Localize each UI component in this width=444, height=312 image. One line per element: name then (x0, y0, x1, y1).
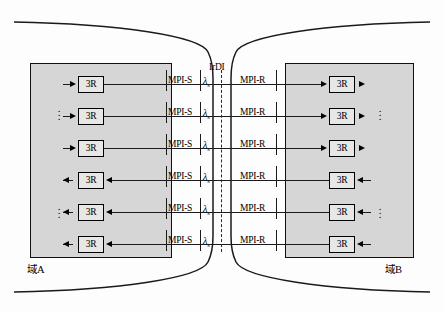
row-2-mpis-tick-right (200, 102, 201, 123)
row-5-feed-in-right (363, 212, 371, 213)
row-1-wavelength-label: λs (203, 76, 210, 90)
row-2-mpis-label: MPI-S (168, 107, 192, 117)
row-1-mpir-label: MPI-R (240, 75, 265, 85)
domain-a-label: 域A (27, 264, 45, 276)
row-5-mpis-tick-right (200, 198, 201, 219)
row-1-mpis-tick-left (166, 70, 167, 91)
row-2-mpir-tick-right (276, 102, 277, 123)
row-3-left-regenerator: 3R (78, 140, 104, 157)
row-3-arrow-out-right (359, 145, 365, 151)
row-2-arrow-out-right (359, 113, 365, 119)
row-4-mpir-tick-right (276, 166, 277, 187)
row-2-arrow-into-right-box (321, 113, 327, 119)
row-4-left-regenerator: 3R (78, 172, 104, 189)
row-5-mpir-tick-right (276, 198, 277, 219)
row-6-arrow-out-left (63, 241, 69, 247)
row-5-arrow-into-left-box (106, 209, 112, 215)
ellipsis-right-lower: ... (377, 204, 383, 216)
row-2-link-right (223, 116, 321, 117)
row-3-mpir-label: MPI-R (240, 139, 265, 149)
row-4-mpis-tick-left (166, 166, 167, 187)
row-4-wavelength-label: λs (203, 172, 210, 186)
row-2-left-regenerator: 3R (78, 108, 104, 125)
row-6-mpis-label: MPI-S (168, 235, 192, 245)
domain-b-label: 域B (385, 264, 402, 276)
row-4-feed-in-right (363, 180, 371, 181)
row-4-arrow-out-left (63, 177, 69, 183)
row-3-arrow-into-right-box (321, 145, 327, 151)
row-2-right-regenerator: 3R (329, 108, 355, 125)
row-6-feed-in-right (363, 244, 371, 245)
row-4-right-regenerator: 3R (329, 172, 355, 189)
row-3-arrow-into-left-box (70, 145, 76, 151)
row-3-wavelength-label: λs (203, 140, 210, 154)
row-2-arrow-into-left-box (70, 113, 76, 119)
row-5-arrow-out-left (63, 209, 69, 215)
diagram-canvas: 3R 3R MPI-S MPI-R λs 3R 3R MPI-S MPI-R λ… (0, 0, 444, 312)
row-3-right-regenerator: 3R (329, 140, 355, 157)
row-5-mpis-label: MPI-S (168, 203, 192, 213)
row-1-mpis-tick-right (200, 70, 201, 91)
row-6-mpir-label: MPI-R (240, 235, 265, 245)
ellipsis-left-lower: ... (56, 204, 62, 216)
irdi-label: IrDI (209, 62, 225, 72)
row-3-mpis-tick-right (200, 134, 201, 155)
row-5-left-regenerator: 3R (78, 204, 104, 221)
row-1-link-right (223, 84, 321, 85)
row-4-mpis-label: MPI-S (168, 171, 192, 181)
row-1-arrow-out-right (359, 81, 365, 87)
row-6-mpis-tick-right (200, 230, 201, 251)
row-6-left-regenerator: 3R (78, 236, 104, 253)
row-1-right-regenerator: 3R (329, 76, 355, 93)
row-6-mpir-tick-right (276, 230, 277, 251)
row-3-mpis-label: MPI-S (168, 139, 192, 149)
ellipsis-left-upper: ... (56, 106, 62, 118)
row-1-mpis-label: MPI-S (168, 75, 192, 85)
row-1-arrow-into-left-box (70, 81, 76, 87)
row-5-mpir-label: MPI-R (240, 203, 265, 213)
row-3-mpir-tick-right (276, 134, 277, 155)
row-3-mpis-tick-left (166, 134, 167, 155)
row-4-mpir-label: MPI-R (240, 171, 265, 181)
row-3-link-right (223, 148, 321, 149)
row-6-mpis-tick-left (166, 230, 167, 251)
row-2-mpis-tick-left (166, 102, 167, 123)
row-6-wavelength-label: λs (203, 236, 210, 250)
row-2-wavelength-label: λs (203, 108, 210, 122)
row-6-arrow-into-left-box (106, 241, 112, 247)
row-1-mpir-tick-right (276, 70, 277, 91)
row-2-mpir-label: MPI-R (240, 107, 265, 117)
irdi-boundary-dashed-line (221, 70, 222, 252)
row-1-left-regenerator: 3R (78, 76, 104, 93)
row-4-mpis-tick-right (200, 166, 201, 187)
row-1-arrow-into-right-box (321, 81, 327, 87)
row-5-right-regenerator: 3R (329, 204, 355, 221)
row-6-right-regenerator: 3R (329, 236, 355, 253)
ellipsis-right-upper: ... (377, 106, 383, 118)
row-4-arrow-into-left-box (106, 177, 112, 183)
row-5-mpis-tick-left (166, 198, 167, 219)
row-5-wavelength-label: λs (203, 204, 210, 218)
